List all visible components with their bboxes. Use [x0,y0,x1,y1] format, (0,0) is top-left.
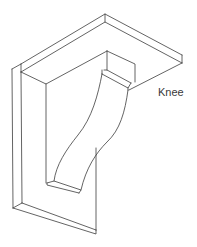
knee-block [102,51,135,90]
bracket-diagram: Knee [0,0,197,247]
back-plate [12,64,96,234]
top-plate [21,14,182,90]
bracket-drawing [0,0,197,247]
knee-label: Knee [158,87,184,98]
knee-curve [47,74,128,193]
